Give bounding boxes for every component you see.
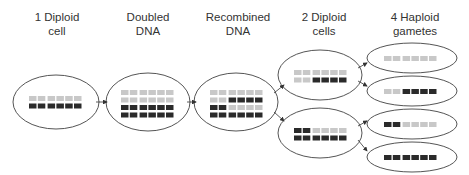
dark-dna-block xyxy=(219,105,227,110)
light-dna-block xyxy=(48,96,56,101)
light-dna-block xyxy=(339,128,347,133)
meiosis-diagram xyxy=(0,0,469,175)
light-dna-block xyxy=(384,56,392,61)
light-dna-block xyxy=(321,128,329,133)
light-dna-block xyxy=(148,98,156,103)
dark-dna-block xyxy=(157,113,165,118)
dark-dna-block xyxy=(121,105,129,110)
dark-dna-block xyxy=(148,113,156,118)
dark-dna-block xyxy=(219,113,227,118)
light-dna-block xyxy=(294,70,302,75)
dark-dna-block xyxy=(330,78,338,83)
light-dna-block xyxy=(420,122,428,127)
light-dna-block xyxy=(429,56,437,61)
dark-dna-block xyxy=(130,105,138,110)
dark-dna-block xyxy=(411,89,419,94)
light-dna-block xyxy=(411,56,419,61)
light-dna-block xyxy=(166,98,174,103)
dark-dna-block xyxy=(255,98,263,103)
light-dna-block xyxy=(393,56,401,61)
dark-dna-block xyxy=(210,105,218,110)
dark-dna-block xyxy=(429,89,437,94)
chromosome-blocks xyxy=(29,56,437,160)
dark-dna-block xyxy=(313,136,321,141)
light-dna-block xyxy=(229,90,237,95)
light-dna-block xyxy=(237,105,245,110)
dark-dna-block xyxy=(411,155,419,160)
light-dna-block xyxy=(384,89,392,94)
light-dna-block xyxy=(313,70,321,75)
light-dna-block xyxy=(246,90,254,95)
dark-dna-block xyxy=(157,105,165,110)
light-dna-block xyxy=(393,89,401,94)
light-dna-block xyxy=(246,105,254,110)
dark-dna-block xyxy=(246,98,254,103)
dark-dna-block xyxy=(303,136,311,141)
light-dna-block xyxy=(237,90,245,95)
dark-dna-block xyxy=(38,104,46,109)
dark-dna-block xyxy=(130,113,138,118)
light-dna-block xyxy=(38,96,46,101)
light-dna-block xyxy=(74,96,82,101)
dark-dna-block xyxy=(321,136,329,141)
dark-dna-block xyxy=(48,104,56,109)
dark-dna-block xyxy=(384,122,392,127)
dark-dna-block xyxy=(237,98,245,103)
dark-dna-block xyxy=(166,105,174,110)
dark-dna-block xyxy=(229,113,237,118)
dark-dna-block xyxy=(303,128,311,133)
light-dna-block xyxy=(130,98,138,103)
light-dna-block xyxy=(166,90,174,95)
light-dna-block xyxy=(420,56,428,61)
light-dna-block xyxy=(313,128,321,133)
light-dna-block xyxy=(121,90,129,95)
dark-dna-block xyxy=(29,104,37,109)
dark-dna-block xyxy=(403,155,411,160)
light-dna-block xyxy=(303,70,311,75)
light-dna-block xyxy=(330,70,338,75)
dark-dna-block xyxy=(74,104,82,109)
light-dna-block xyxy=(303,78,311,83)
diploid-cell xyxy=(13,75,99,129)
light-dna-block xyxy=(210,98,218,103)
arrow-icon xyxy=(274,85,284,93)
dark-dna-block xyxy=(313,78,321,83)
dark-dna-block xyxy=(393,122,401,127)
light-dna-block xyxy=(29,96,37,101)
light-dna-block xyxy=(429,122,437,127)
light-dna-block xyxy=(210,90,218,95)
dark-dna-block xyxy=(246,113,254,118)
dark-dna-block xyxy=(384,155,392,160)
light-dna-block xyxy=(403,122,411,127)
dark-dna-block xyxy=(339,136,347,141)
light-dna-block xyxy=(121,98,129,103)
light-dna-block xyxy=(56,96,64,101)
dark-dna-block xyxy=(56,104,64,109)
light-dna-block xyxy=(148,90,156,95)
dark-dna-block xyxy=(403,89,411,94)
dark-dna-block xyxy=(210,113,218,118)
arrow-icon xyxy=(358,140,367,151)
dark-dna-block xyxy=(330,136,338,141)
dark-dna-block xyxy=(339,78,347,83)
doubled-dna-cell xyxy=(106,73,190,131)
dark-dna-block xyxy=(237,113,245,118)
dark-dna-block xyxy=(420,89,428,94)
light-dna-block xyxy=(219,90,227,95)
light-dna-block xyxy=(339,70,347,75)
dark-dna-block xyxy=(140,113,148,118)
light-dna-block xyxy=(65,96,73,101)
dark-dna-block xyxy=(166,113,174,118)
dark-dna-block xyxy=(65,104,73,109)
light-dna-block xyxy=(403,56,411,61)
light-dna-block xyxy=(255,90,263,95)
dark-dna-block xyxy=(255,113,263,118)
light-dna-block xyxy=(219,98,227,103)
light-dna-block xyxy=(140,90,148,95)
light-dna-block xyxy=(157,90,165,95)
dark-dna-block xyxy=(229,98,237,103)
light-dna-block xyxy=(130,90,138,95)
dark-dna-block xyxy=(294,128,302,133)
light-dna-block xyxy=(411,122,419,127)
dark-dna-block xyxy=(140,105,148,110)
